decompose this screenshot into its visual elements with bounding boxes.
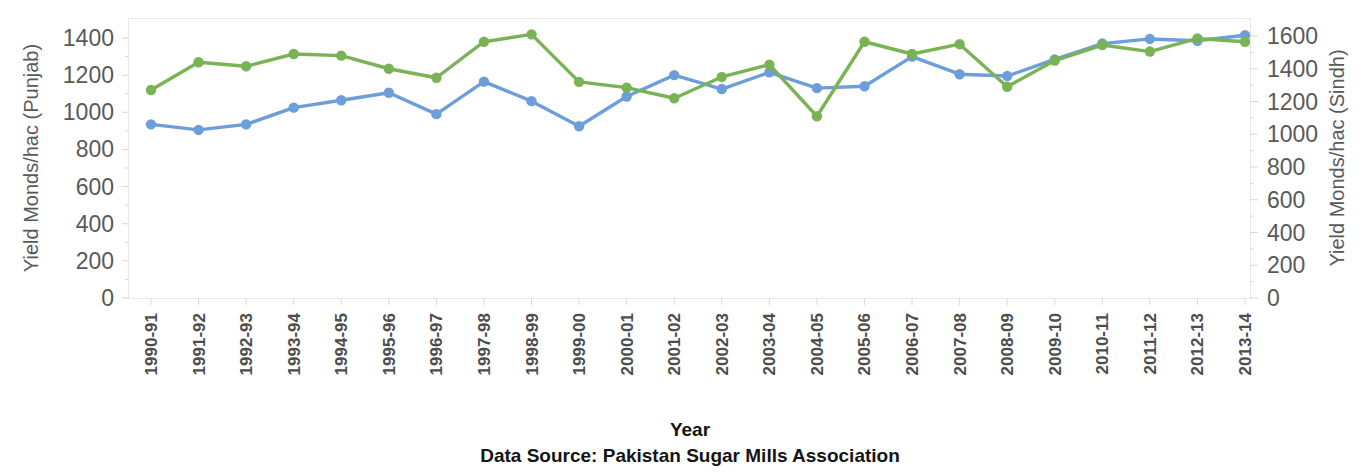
x-tick-label: 2000-01	[618, 313, 637, 375]
series-line-punjab	[151, 35, 1245, 130]
right-tick-label: 0	[1267, 285, 1280, 311]
right-tick-label: 1400	[1267, 56, 1318, 82]
data-point-punjab	[954, 69, 964, 79]
left-tick-label: 600	[76, 174, 114, 200]
x-tick-label: 2006-07	[903, 313, 922, 375]
x-tick-label: 1992-93	[237, 313, 256, 375]
data-point-sindh	[241, 61, 251, 71]
left-tick-label: 400	[76, 211, 114, 237]
data-point-punjab	[621, 91, 631, 101]
left-tick-label: 1200	[63, 62, 114, 88]
right-tick-label: 400	[1267, 220, 1305, 246]
x-tick-label: 1993-94	[285, 312, 304, 375]
x-axis-tick-labels: 1990-911991-921992-931993-941994-951995-…	[142, 312, 1255, 375]
data-point-sindh	[1050, 55, 1060, 65]
x-tick-label: 2002-03	[713, 313, 732, 375]
x-tick-label: 1991-92	[190, 313, 209, 375]
data-point-sindh	[431, 73, 441, 83]
right-tick-label: 800	[1267, 154, 1305, 180]
data-point-punjab	[812, 83, 822, 93]
left-tick-label: 0	[101, 285, 114, 311]
right-tick-label: 1600	[1267, 23, 1318, 49]
left-tick-label: 1400	[63, 25, 114, 51]
data-point-sindh	[764, 59, 774, 69]
data-point-punjab	[1145, 34, 1155, 44]
data-source-note: Data Source: Pakistan Sugar Mills Associ…	[480, 445, 900, 466]
x-tick-label: 1995-96	[380, 313, 399, 375]
data-point-punjab	[384, 88, 394, 98]
data-point-sindh	[1145, 46, 1155, 56]
right-axis-title: Yield Monds/hac (Sindh)	[1326, 49, 1348, 266]
data-point-punjab	[1002, 71, 1012, 81]
x-tick-label: 1998-99	[523, 313, 542, 375]
data-point-sindh	[621, 82, 631, 92]
data-point-punjab	[669, 70, 679, 80]
data-point-sindh	[574, 77, 584, 87]
x-axis-ticks	[151, 298, 1245, 305]
data-point-sindh	[289, 49, 299, 59]
x-tick-label: 2010-11	[1093, 313, 1112, 374]
data-point-punjab	[193, 125, 203, 135]
plot-area-frame	[129, 19, 1251, 299]
data-point-sindh	[669, 93, 679, 103]
data-point-sindh	[1097, 40, 1107, 50]
data-point-sindh	[859, 37, 869, 47]
data-point-sindh	[526, 29, 536, 39]
x-tick-label: 1997-98	[475, 313, 494, 375]
data-point-sindh	[954, 39, 964, 49]
data-point-sindh	[1192, 33, 1202, 43]
left-axis-ticks	[122, 38, 129, 298]
x-tick-label: 2003-04	[760, 312, 779, 375]
x-axis-title: Year	[670, 419, 711, 440]
data-point-sindh	[479, 37, 489, 47]
data-point-punjab	[717, 84, 727, 94]
x-tick-label: 1990-91	[142, 313, 161, 375]
data-point-sindh	[336, 50, 346, 60]
right-axis-ticks	[1250, 36, 1258, 298]
data-point-punjab	[574, 121, 584, 131]
data-point-sindh	[907, 49, 917, 59]
left-axis-title: Yield Monds/hac (Punjab)	[20, 44, 42, 272]
data-point-punjab	[431, 109, 441, 119]
left-tick-label: 1000	[63, 99, 114, 125]
data-point-punjab	[241, 119, 251, 129]
x-tick-label: 2013-14	[1236, 312, 1255, 375]
x-tick-label: 1999-00	[570, 313, 589, 375]
x-tick-label: 1996-97	[427, 313, 446, 375]
data-point-punjab	[146, 119, 156, 129]
data-point-punjab	[526, 96, 536, 106]
data-point-sindh	[812, 111, 822, 121]
left-axis-tick-labels: 0200400600800100012001400	[63, 25, 114, 311]
x-tick-label: 2005-06	[855, 313, 874, 375]
line-chart-canvas: 0200400600800100012001400 02004006008001…	[0, 0, 1371, 473]
x-tick-label: 2009-10	[1046, 313, 1065, 375]
left-tick-label: 800	[76, 136, 114, 162]
data-point-sindh	[193, 57, 203, 67]
x-tick-label: 2012-13	[1188, 313, 1207, 375]
data-point-punjab	[336, 95, 346, 105]
x-tick-label: 2008-09	[998, 313, 1017, 375]
series-layer	[146, 29, 1250, 135]
data-point-sindh	[1002, 82, 1012, 92]
data-point-sindh	[717, 72, 727, 82]
data-point-punjab	[859, 81, 869, 91]
x-tick-label: 2011-12	[1141, 313, 1160, 374]
left-tick-label: 200	[76, 248, 114, 274]
x-tick-label: 2004-05	[808, 313, 827, 375]
data-point-sindh	[1240, 37, 1250, 47]
right-tick-label: 200	[1267, 252, 1305, 278]
right-axis-tick-labels: 02004006008001000120014001600	[1267, 23, 1318, 311]
data-point-punjab	[479, 76, 489, 86]
right-tick-label: 1000	[1267, 121, 1318, 147]
x-tick-label: 2007-08	[951, 313, 970, 375]
x-tick-label: 2001-02	[665, 313, 684, 375]
data-point-sindh	[146, 85, 156, 95]
chart-figure: 0200400600800100012001400 02004006008001…	[0, 0, 1371, 473]
right-tick-label: 1200	[1267, 89, 1318, 115]
data-point-sindh	[384, 64, 394, 74]
x-tick-label: 1994-95	[332, 313, 351, 375]
right-tick-label: 600	[1267, 187, 1305, 213]
data-point-punjab	[289, 102, 299, 112]
